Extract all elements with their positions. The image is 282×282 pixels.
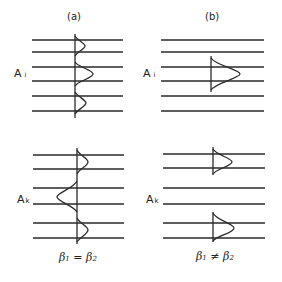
panel-b-bottom-peak-2 [213,213,234,241]
panel-a-title: (a) [67,11,81,22]
panel-b-label-ak: Ak [146,193,159,206]
panel-b-top-peak [211,58,240,90]
panel-b-label-ai: Ai [143,67,155,80]
panel-a-top-peak-2 [75,62,93,86]
panel-a-bottom-peak-1 [77,150,88,174]
panel-b-bottom-lines [163,154,265,238]
panel-b-bottom-peak-1 [213,149,232,174]
panel-a-label-ak: Ak [17,193,30,206]
panel-b-top-lines [161,40,264,111]
panel-a-bottom-lines [33,155,124,238]
panel-a-label-ai: Ai [14,67,26,80]
panel-a-caption: β1 = β2 [59,251,97,264]
panel-a-top-lines [32,40,123,111]
panel-b-caption: β1 ≠ β2 [196,250,234,263]
band-diagram [0,0,282,282]
panel-b-title: (b) [205,11,219,22]
panel-a-bottom-peak-2 [57,181,77,212]
panel-a-top-peak-1 [75,36,85,56]
diagram: (a) (b) Ai Ai Ak Ak β1 = β2 β1 ≠ β2 [0,0,282,282]
